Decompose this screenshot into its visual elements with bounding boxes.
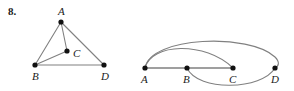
vertex-B — [184, 65, 189, 70]
vertex-label-B: B — [183, 73, 190, 85]
vertex-D — [272, 65, 277, 70]
vertex-C — [230, 65, 235, 70]
right-graph-arcs — [145, 41, 278, 85]
figure-page: 8. A B C D — [0, 0, 294, 91]
vertex-label-C: C — [229, 73, 237, 85]
right-graph-figure: A B C D — [0, 0, 294, 91]
vertex-A — [142, 65, 147, 70]
vertex-label-A: A — [140, 73, 148, 85]
arc-A-C-above — [145, 48, 233, 68]
vertex-label-D: D — [270, 73, 279, 85]
